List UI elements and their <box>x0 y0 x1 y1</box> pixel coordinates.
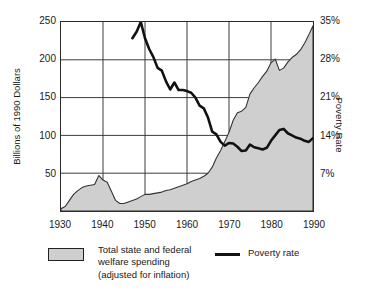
legend-line-swatch <box>215 253 240 256</box>
left-axis-title: Billions of 1990 Dollars <box>8 21 24 212</box>
x-axis-tick-1940: 1940 <box>82 219 122 230</box>
left-axis-tick-100: 100 <box>22 130 56 141</box>
plot-svg <box>61 22 313 211</box>
right-axis-tick-35pct: 35% <box>320 15 356 26</box>
legend-line-label: Poverty rate <box>248 247 299 258</box>
cropped-header-remnant <box>0 0 365 8</box>
legend: Total state and federal welfare spending… <box>46 244 356 288</box>
x-axis-tick-1950: 1950 <box>125 219 165 230</box>
x-axis-tick-1930: 1930 <box>40 219 80 230</box>
chart-figure: Billions of 1990 Dollars Poverty Rate 50… <box>0 0 365 289</box>
left-axis-tick-50: 50 <box>22 168 56 179</box>
legend-area-swatch <box>48 248 84 261</box>
x-axis-tick-1980: 1980 <box>252 219 292 230</box>
left-axis-tick-150: 150 <box>22 91 56 102</box>
x-axis-tick-1960: 1960 <box>167 219 207 230</box>
left-axis-tick-250: 250 <box>22 15 56 26</box>
right-axis-tick-21pct: 21% <box>320 91 356 102</box>
right-axis-tick-7pct: 7% <box>320 168 356 179</box>
right-axis-tick-28pct: 28% <box>320 53 356 64</box>
plot-area <box>60 21 314 212</box>
left-axis-tick-200: 200 <box>22 53 56 64</box>
x-axis-tick-1990: 1990 <box>294 219 334 230</box>
x-axis-tick-1970: 1970 <box>209 219 249 230</box>
right-axis-tick-14pct: 14% <box>320 130 356 141</box>
legend-area-label: Total state and federal welfare spending… <box>98 244 191 281</box>
